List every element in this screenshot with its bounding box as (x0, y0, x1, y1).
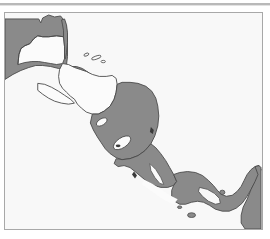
lake-nicaragua-island (116, 144, 121, 147)
top-divider-rule-shadow (0, 5, 270, 6)
central-america-map: Mexico Belize Guatemala El Salvador Hond… (5, 13, 262, 229)
island-guanaja (101, 60, 105, 62)
island-pearl (220, 190, 225, 194)
figure-container: Mexico Belize Guatemala El Salvador Hond… (0, 0, 270, 239)
island-coiba (188, 213, 196, 218)
island-cebaco (177, 206, 181, 209)
map-frame: Mexico Belize Guatemala El Salvador Hond… (4, 12, 263, 230)
